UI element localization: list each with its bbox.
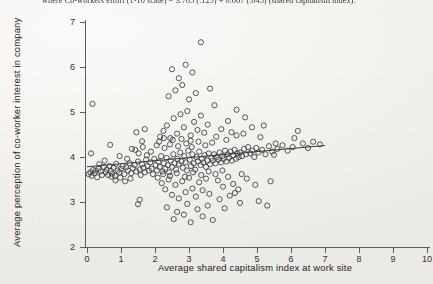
- data-point: [181, 212, 186, 217]
- data-point: [199, 172, 204, 177]
- data-point: [167, 170, 172, 175]
- data-point: [195, 207, 200, 212]
- data-point: [173, 88, 178, 93]
- y-tick-label: 5: [70, 107, 75, 117]
- data-point: [183, 190, 188, 195]
- data-point: [185, 201, 190, 206]
- x-tick-label: 10: [422, 254, 432, 264]
- data-point: [88, 151, 93, 156]
- data-point: [261, 123, 266, 128]
- data-point: [154, 168, 159, 173]
- data-point: [222, 206, 227, 211]
- data-point: [215, 178, 220, 183]
- data-point: [189, 145, 194, 150]
- data-point: [226, 118, 231, 123]
- data-point: [166, 94, 171, 99]
- data-point: [188, 138, 193, 143]
- data-point: [117, 154, 122, 159]
- data-point: [252, 154, 257, 159]
- data-point: [179, 136, 184, 141]
- data-point: [292, 136, 297, 141]
- data-point: [122, 179, 127, 184]
- data-point: [222, 148, 227, 153]
- y-axis-title: Average perception of co-worker interest…: [11, 17, 22, 247]
- data-point: [249, 125, 254, 130]
- data-point: [162, 145, 167, 150]
- scatter-plot-svg: Average perception of co-worker interest…: [0, 0, 433, 284]
- data-point: [125, 156, 130, 161]
- data-point: [217, 197, 222, 202]
- data-point: [118, 175, 123, 180]
- data-point: [203, 143, 208, 148]
- data-point: [128, 176, 133, 181]
- data-point: [232, 190, 237, 195]
- data-point: [256, 199, 261, 204]
- data-point: [280, 143, 285, 148]
- data-point: [171, 152, 176, 157]
- data-point: [205, 122, 210, 127]
- data-point: [198, 40, 203, 45]
- data-point: [243, 115, 248, 120]
- data-point: [205, 203, 210, 208]
- data-point: [176, 196, 181, 201]
- data-point: [207, 162, 212, 167]
- data-point: [234, 107, 239, 112]
- data-point: [198, 113, 203, 118]
- data-point: [195, 127, 200, 132]
- data-point: [197, 149, 202, 154]
- data-point: [229, 130, 234, 135]
- y-tick-label: 3: [70, 197, 75, 207]
- data-point: [214, 134, 219, 139]
- data-point: [188, 220, 193, 225]
- data-point: [173, 182, 178, 187]
- data-point: [102, 158, 107, 163]
- data-point: [181, 125, 186, 130]
- data-point: [161, 128, 166, 133]
- data-point: [193, 194, 198, 199]
- data-point: [258, 135, 263, 140]
- data-point: [256, 150, 261, 155]
- data-point: [210, 217, 215, 222]
- data-point: [185, 109, 190, 114]
- data-point: [90, 101, 95, 106]
- data-point: [190, 70, 195, 75]
- data-point: [171, 217, 176, 222]
- data-point: [193, 91, 198, 96]
- data-point: [311, 139, 316, 144]
- data-point: [159, 154, 164, 159]
- data-point: [237, 200, 242, 205]
- data-point: [169, 192, 174, 197]
- data-point: [164, 123, 169, 128]
- data-point: [207, 86, 212, 91]
- data-point: [300, 141, 305, 146]
- data-point: [227, 193, 232, 198]
- data-point-layer: [86, 40, 322, 225]
- data-point: [173, 167, 178, 172]
- data-point: [305, 145, 310, 150]
- data-point: [178, 112, 183, 117]
- data-point: [184, 168, 189, 173]
- data-point: [174, 171, 179, 176]
- data-point: [175, 131, 180, 136]
- data-point: [133, 147, 138, 152]
- y-tick-label: 7: [70, 17, 75, 27]
- x-tick-label: 2: [152, 254, 157, 264]
- data-point: [219, 127, 224, 132]
- y-tick-label: 4: [70, 152, 75, 162]
- data-point: [197, 180, 202, 185]
- data-point: [213, 172, 218, 177]
- data-point: [129, 171, 134, 176]
- data-point: [207, 191, 212, 196]
- data-point: [140, 145, 145, 150]
- data-point: [253, 182, 258, 187]
- data-point: [224, 137, 229, 142]
- data-point: [163, 187, 168, 192]
- data-point: [186, 97, 191, 102]
- data-point: [200, 188, 205, 193]
- x-axis-title: Average shared capitalism index at work …: [158, 262, 352, 273]
- data-point: [164, 205, 169, 210]
- data-point: [176, 144, 181, 149]
- data-point: [265, 203, 270, 208]
- data-point: [220, 168, 225, 173]
- data-point: [183, 62, 188, 67]
